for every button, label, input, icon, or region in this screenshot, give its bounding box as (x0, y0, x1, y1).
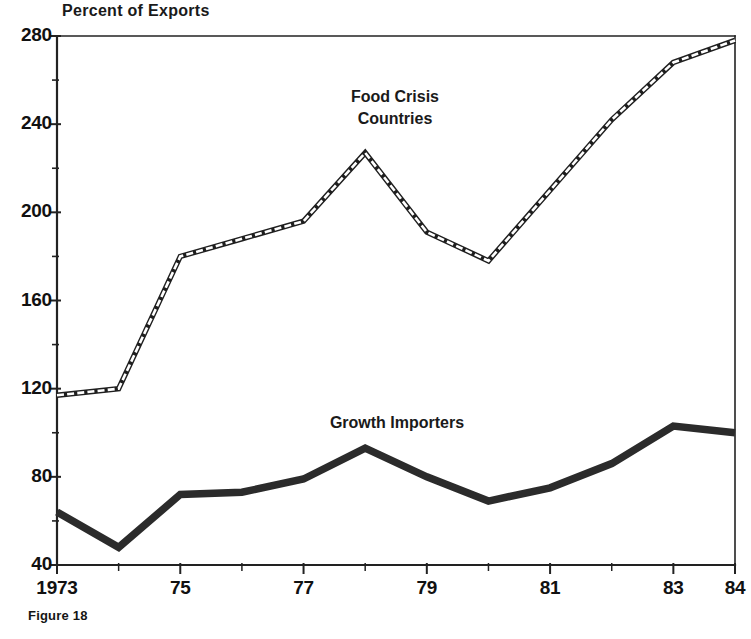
series-label-line-2: Countries (358, 110, 433, 127)
y-axis-tick-label: 120 (0, 377, 52, 399)
figure-container: Percent of Exports 2802402001601208040 1… (0, 0, 751, 639)
x-axis-tick-label: 81 (505, 577, 595, 599)
series-line-growth-importers (57, 426, 735, 547)
y-axis-tick-label: 240 (0, 112, 52, 134)
y-axis-title: Percent of Exports (62, 2, 210, 20)
x-axis-tick-label: 75 (135, 577, 225, 599)
x-axis-tick-label: 84 (690, 577, 751, 599)
series-label-food-crisis-countries: Food Crisis Countries (300, 86, 490, 129)
x-axis-tick-label: 79 (382, 577, 472, 599)
series-label-line-1: Food Crisis (351, 88, 439, 105)
y-axis-tick-label: 200 (0, 200, 52, 222)
series-label-growth-importers: Growth Importers (282, 412, 512, 434)
y-axis-tick-label: 280 (0, 24, 52, 46)
x-axis-tick-label: 77 (259, 577, 349, 599)
x-axis-tick-label: 1973 (12, 577, 102, 599)
y-axis-tick-label: 80 (0, 465, 52, 487)
series-stroke (57, 426, 735, 547)
y-axis-tick-label: 160 (0, 289, 52, 311)
figure-caption: Figure 18 (28, 608, 88, 623)
y-axis-tick-label: 40 (0, 553, 52, 575)
